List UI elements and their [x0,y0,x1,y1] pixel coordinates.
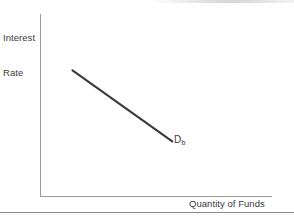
demand-curve-line [72,70,172,141]
demand-curve-label-subscript: b [182,139,186,146]
demand-curve-label-main: D [174,134,181,145]
economics-demand-for-funds-figure: Interest Rate Quantity of Funds Db [0,0,294,219]
demand-curve-label: Db [174,134,185,145]
demand-curve-plot [0,0,294,219]
bottom-divider-rule [0,212,294,213]
